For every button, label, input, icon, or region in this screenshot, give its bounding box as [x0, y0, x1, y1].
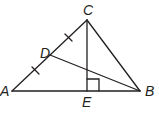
label-b: B — [145, 84, 154, 98]
right-angle-marker — [87, 79, 99, 91]
triangle-figure — [0, 0, 159, 113]
label-a: A — [0, 84, 9, 98]
label-e: E — [82, 95, 91, 109]
label-c: C — [83, 3, 93, 17]
triangle-diagram: C D A E B — [0, 0, 159, 113]
label-d: D — [40, 46, 50, 60]
